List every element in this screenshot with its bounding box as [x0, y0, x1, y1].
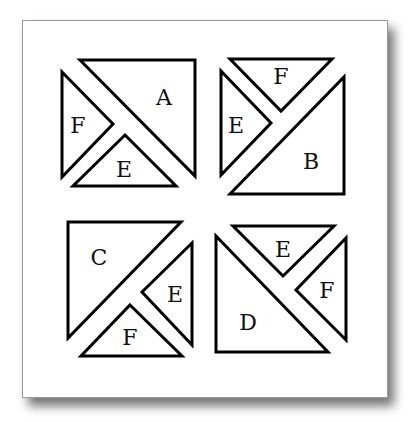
piece-label: E — [228, 113, 244, 138]
panel-bottom-right: E F D — [216, 226, 346, 352]
piece-label: E — [116, 157, 132, 182]
piece-label: C — [91, 245, 108, 270]
panel-top-left: A F E — [62, 60, 195, 186]
piece-label: E — [167, 282, 183, 307]
piece-label: D — [239, 310, 257, 335]
piece-label: F — [122, 325, 137, 350]
piece-label: E — [275, 237, 291, 262]
piece-label: F — [273, 64, 288, 89]
piece-label: F — [319, 278, 334, 303]
piece-label: A — [155, 85, 173, 110]
piece-label: B — [303, 149, 319, 174]
panel-top-right: F E B — [221, 59, 344, 194]
piece-label: F — [70, 113, 85, 138]
triangle-puzzle-diagram: A F E F E B C E F E F D — [0, 0, 408, 422]
panel-bottom-left: C E F — [68, 222, 192, 356]
